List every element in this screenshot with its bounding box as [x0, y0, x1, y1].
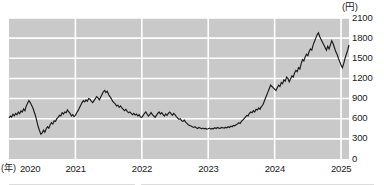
footer-divider-right — [141, 184, 374, 185]
x-axis-tick-label: 2024 — [265, 163, 285, 174]
footer-divider-left — [9, 184, 135, 185]
x-axis-tick-label: 2022 — [132, 163, 152, 174]
x-axis-unit-label: (年) — [1, 163, 16, 174]
x-axis-tick-labels: (年)202020212022202320242025 — [0, 0, 384, 185]
x-axis-tick-label: 2020 — [20, 163, 40, 174]
stock-price-line-chart: (円) 03006009001200150018002100 (年)202020… — [0, 0, 384, 185]
x-axis-tick-label: 2023 — [198, 163, 218, 174]
x-axis-tick-label: 2021 — [65, 163, 85, 174]
x-axis-tick-label: 2025 — [331, 163, 351, 174]
